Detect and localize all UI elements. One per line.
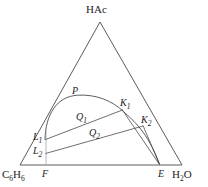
benzene-sub-2: 6 (21, 174, 25, 183)
diagram-canvas (0, 0, 208, 187)
l1-sub: 1 (39, 136, 43, 145)
point-label-k1: K1 (120, 98, 130, 111)
point-label-e: E (158, 169, 164, 179)
point-label-q1: Q1 (76, 112, 87, 125)
q1-sub: 1 (83, 116, 87, 125)
k2-letter: K (141, 114, 148, 125)
triangle-outline (20, 22, 182, 165)
point-label-p: P (72, 86, 78, 96)
vertex-label-benzene: C6H6 (2, 169, 25, 183)
point-label-k2: K2 (141, 115, 151, 128)
binodal-curve (45, 95, 160, 164)
point-label-f: F (42, 169, 48, 179)
k1-sub: 1 (127, 102, 131, 111)
benzene-h: H (13, 168, 21, 180)
point-label-q2: Q2 (89, 128, 100, 141)
vertex-label-hac: HAc (86, 4, 107, 15)
water-o: O (184, 168, 192, 180)
water-h: H (172, 168, 180, 180)
q2-sub: 2 (96, 132, 100, 141)
k1-letter: K (120, 97, 127, 108)
point-label-l1: L1 (33, 132, 42, 145)
vertex-label-water: H2O (172, 169, 192, 183)
k2-sub: 2 (148, 119, 152, 128)
ray-e-k2 (143, 126, 160, 165)
point-label-l2: L2 (33, 146, 42, 159)
l2-sub: 2 (39, 150, 43, 159)
ternary-phase-diagram: HAc C6H6 H2O P K1 K2 L1 L2 Q1 Q2 F E (0, 0, 208, 187)
